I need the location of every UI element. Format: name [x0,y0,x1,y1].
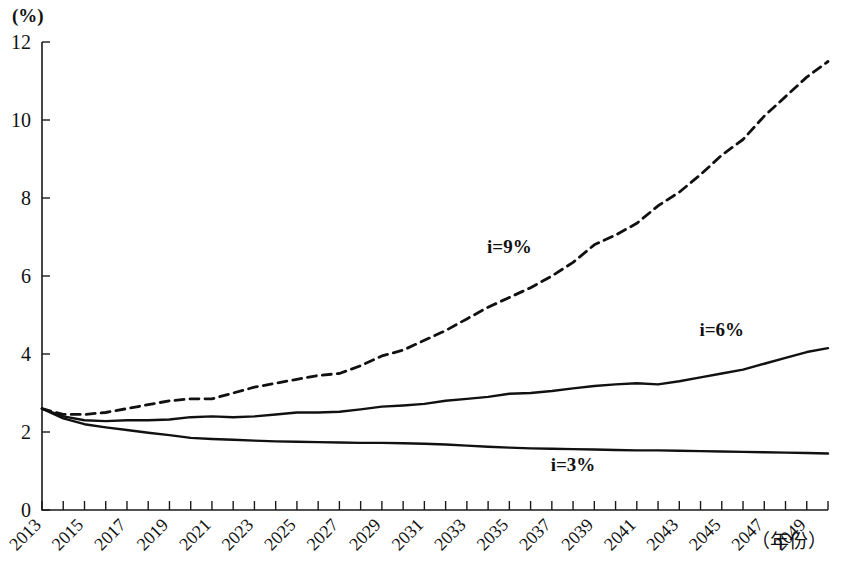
series-annotation-i3: i=3% [551,454,596,475]
y-axis-unit-label: (%) [12,5,44,27]
y-tick-label: 6 [21,265,31,287]
y-tick-label: 8 [21,187,31,209]
x-tick-label: 2037 [515,515,555,555]
x-tick-label: 2041 [600,515,640,555]
y-tick-label: 4 [21,343,31,365]
x-tick-label: 2029 [345,515,385,555]
x-tick-label: 2027 [303,515,343,555]
x-tick-label: 2045 [685,515,725,555]
series-line-i9 [42,62,828,415]
axes-layer: 0246810122013201520172019202120232025202… [5,31,828,554]
x-tick-label: 2031 [388,515,428,555]
series-line-i3 [42,409,828,454]
x-tick-label: 2013 [5,515,45,555]
y-tick-label: 12 [11,31,31,53]
x-tick-label: 2035 [473,515,513,555]
x-axis-title: （年份） [751,531,827,552]
x-tick-label: 2019 [133,515,173,555]
series-layer [42,62,828,454]
x-tick-label: 2021 [175,515,215,555]
x-tick-label: 2043 [643,515,683,555]
series-annotation-i9: i=9% [487,236,532,257]
chart-container: 0246810122013201520172019202120232025202… [0,0,857,562]
x-tick-label: 2017 [90,515,130,555]
labels-layer: (%)（年份）i=9%i=6%i=3% [12,5,827,552]
y-tick-label: 10 [11,109,31,131]
series-annotation-i6: i=6% [699,319,744,340]
axis-lines [42,42,828,510]
line-chart: 0246810122013201520172019202120232025202… [0,0,857,562]
y-tick-label: 2 [21,421,31,443]
series-line-i6 [42,348,828,421]
x-tick-label: 2023 [218,515,258,555]
x-tick-label: 2015 [48,515,88,555]
x-tick-label: 2025 [260,515,300,555]
x-tick-label: 2033 [430,515,470,555]
x-tick-label: 2039 [558,515,598,555]
